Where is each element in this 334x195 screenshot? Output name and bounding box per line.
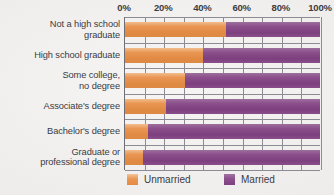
gridline-vertical xyxy=(223,17,224,170)
bar-segment-unmarried xyxy=(125,124,148,139)
y-category-label-line: professional degree xyxy=(0,157,120,168)
bar-segment-unmarried xyxy=(125,48,203,63)
bar-row xyxy=(125,150,320,165)
legend-item: Married xyxy=(224,174,275,185)
gridline-vertical xyxy=(203,17,204,170)
y-category-label: Graduate orprofessional degree xyxy=(0,147,120,168)
plot-area xyxy=(124,17,320,170)
y-category-label-line: Graduate or xyxy=(0,147,120,158)
y-category-label: High school graduate xyxy=(0,50,120,61)
gridline-horizontal xyxy=(125,68,320,69)
y-category-label-line: Some college, xyxy=(0,70,120,81)
gridlines xyxy=(125,17,320,170)
gridline-horizontal xyxy=(125,145,320,146)
bar-segment-married xyxy=(166,99,320,114)
x-tick-label: 0% xyxy=(117,2,130,13)
y-category-label-line: no degree xyxy=(0,81,120,92)
gridline-vertical xyxy=(184,17,185,170)
legend-swatch-unmarried xyxy=(127,174,138,185)
gridline-vertical xyxy=(262,17,263,170)
gridline-vertical xyxy=(282,17,283,170)
y-category-label: Bachelor's degree xyxy=(0,126,120,137)
bar-row xyxy=(125,99,320,114)
x-tick-label: 60% xyxy=(232,2,250,13)
bar-row xyxy=(125,124,320,139)
gridline-horizontal xyxy=(125,170,320,171)
x-tick-label: 80% xyxy=(272,2,290,13)
chart-legend: UnmarriedMarried xyxy=(124,174,334,190)
bar-segment-unmarried xyxy=(125,22,226,37)
y-axis-category-labels: Not a high schoolgraduateHigh school gra… xyxy=(0,18,120,170)
gridline-horizontal xyxy=(125,43,320,44)
gridline-vertical xyxy=(164,17,165,170)
bar-row xyxy=(125,48,320,63)
y-category-label-line: Bachelor's degree xyxy=(0,126,120,137)
bar-segment-married xyxy=(203,48,320,63)
y-category-label-line: Not a high school xyxy=(0,19,120,30)
gridline-vertical xyxy=(301,17,302,170)
legend-item: Unmarried xyxy=(127,174,191,185)
gridline-horizontal xyxy=(125,17,320,18)
bar-segment-married xyxy=(226,22,320,37)
y-category-label: Associate's degree xyxy=(0,101,120,112)
x-axis-tick-labels: 0%20%40%60%80%100% xyxy=(124,2,320,15)
y-category-label-line: High school graduate xyxy=(0,50,120,61)
gridline-vertical xyxy=(321,17,322,170)
gridline-horizontal xyxy=(125,119,320,120)
stacked-bar-chart: 0%20%40%60%80%100% Not a high schoolgrad… xyxy=(0,0,334,195)
x-tick-label: 40% xyxy=(193,2,211,13)
bar-segment-unmarried xyxy=(125,73,185,88)
gridline-horizontal xyxy=(125,94,320,95)
y-category-label: Not a high schoolgraduate xyxy=(0,19,120,40)
legend-swatch-married xyxy=(224,174,235,185)
bar-row xyxy=(125,22,320,37)
bar-segment-unmarried xyxy=(125,99,166,114)
bar-segment-married xyxy=(185,73,320,88)
legend-label: Unmarried xyxy=(144,174,191,185)
bar-segment-unmarried xyxy=(125,150,143,165)
x-tick-label: 100% xyxy=(308,2,332,13)
x-tick-label: 20% xyxy=(154,2,172,13)
legend-label: Married xyxy=(241,174,275,185)
y-category-label-line: graduate xyxy=(0,30,120,41)
gridline-vertical xyxy=(243,17,244,170)
y-category-label: Some college,no degree xyxy=(0,70,120,91)
bar-segment-married xyxy=(148,124,320,139)
bar-row xyxy=(125,73,320,88)
bar-segment-married xyxy=(143,150,320,165)
y-category-label-line: Associate's degree xyxy=(0,101,120,112)
gridline-vertical xyxy=(145,17,146,170)
